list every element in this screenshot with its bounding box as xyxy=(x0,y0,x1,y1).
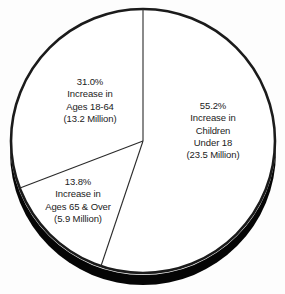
slice-text-adults-line3: Ages 18-64 xyxy=(36,101,144,113)
slice-percent-adults: 31.0% xyxy=(36,76,144,88)
slice-text-seniors-line3: Ages 65 & Over xyxy=(22,201,134,213)
slice-text-children-line4: Under 18 xyxy=(160,137,266,149)
slice-percent-seniors: 13.8% xyxy=(22,176,134,188)
slice-label-ages-18-64: 31.0% Increase in Ages 18-64 (13.2 Milli… xyxy=(36,76,144,125)
slice-count-seniors: (5.9 Million) xyxy=(22,213,134,225)
slice-text-adults-line2: Increase in xyxy=(36,88,144,100)
slice-count-children: (23.5 Million) xyxy=(160,149,266,161)
slice-percent-children: 55.2% xyxy=(160,100,266,112)
slice-label-ages-65-and-over: 13.8% Increase in Ages 65 & Over (5.9 Mi… xyxy=(22,176,134,225)
slice-text-children-line3: Children xyxy=(160,125,266,137)
slice-count-adults: (13.2 Million) xyxy=(36,113,144,125)
slice-label-children-under-18: 55.2% Increase in Children Under 18 (23.… xyxy=(160,100,266,161)
slice-text-seniors-line2: Increase in xyxy=(22,188,134,200)
slice-text-children-line2: Increase in xyxy=(160,112,266,124)
pie-chart: 55.2% Increase in Children Under 18 (23.… xyxy=(0,0,285,294)
